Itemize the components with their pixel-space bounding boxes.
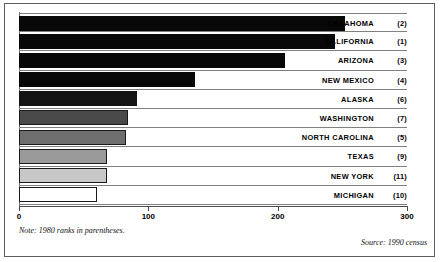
x-axis-line <box>19 206 407 207</box>
x-axis-tick-label: 300 <box>400 212 413 221</box>
bar <box>19 130 126 145</box>
bar-rank: (2) <box>379 18 407 27</box>
bar <box>19 110 128 125</box>
bar-label: NEW MEXICO <box>322 75 374 84</box>
chart-figure: OKLAHOMA(2)CALIFORNIA(1)ARIZONA(3)NEW ME… <box>0 0 440 262</box>
x-axis-tick-label: 0 <box>17 212 21 221</box>
bar <box>19 34 335 49</box>
bar <box>19 187 97 202</box>
x-axis-tick <box>19 206 20 211</box>
bar-label: NORTH CAROLINA <box>302 133 374 142</box>
bar <box>19 168 107 183</box>
bar-label: CALIFORNIA <box>325 37 374 46</box>
x-axis-tick <box>407 206 408 211</box>
bar-label: WASHINGTON <box>320 114 374 123</box>
bar <box>19 149 107 164</box>
bar-rank: (10) <box>379 190 407 199</box>
bar <box>19 53 285 68</box>
bar-label: ALASKA <box>341 94 374 103</box>
chart-row: TEXAS(9) <box>19 147 407 166</box>
x-axis-tick-label: 100 <box>142 212 155 221</box>
bar-rank: (9) <box>379 152 407 161</box>
chart-row: ARIZONA(3) <box>19 51 407 70</box>
chart-row: NEW MEXICO(4) <box>19 71 407 90</box>
bar <box>19 16 345 31</box>
chart-row: MICHIGAN(10) <box>19 186 407 205</box>
chart-row: ALASKA(6) <box>19 90 407 109</box>
chart-row: WASHINGTON(7) <box>19 109 407 128</box>
bar <box>19 91 137 106</box>
x-axis-tick-label: 200 <box>271 212 284 221</box>
chart-row: NORTH CAROLINA(5) <box>19 128 407 147</box>
bar-rank: (1) <box>379 37 407 46</box>
chart-row: CALIFORNIA(1) <box>19 32 407 51</box>
bar-label: NEW YORK <box>331 171 374 180</box>
bar-rank: (5) <box>379 133 407 142</box>
bar-rank: (11) <box>379 171 407 180</box>
bar-label: OKLAHOMA <box>328 18 374 27</box>
chart-source: Source: 1990 census <box>361 238 427 247</box>
chart-row: NEW YORK(11) <box>19 167 407 186</box>
bar-rank: (6) <box>379 94 407 103</box>
x-axis-tick <box>278 206 279 211</box>
bar-label: MICHIGAN <box>334 190 374 199</box>
bar-rank: (3) <box>379 56 407 65</box>
bar-rank: (7) <box>379 114 407 123</box>
chart-note: Note: 1980 ranks in parentheses. <box>19 226 125 235</box>
x-axis-tick <box>148 206 149 211</box>
bar-label: TEXAS <box>348 152 374 161</box>
bar-chart-plot: OKLAHOMA(2)CALIFORNIA(1)ARIZONA(3)NEW ME… <box>19 13 407 205</box>
bar <box>19 72 195 87</box>
bar-rank: (4) <box>379 75 407 84</box>
chart-row: OKLAHOMA(2) <box>19 13 407 32</box>
bar-label: ARIZONA <box>338 56 374 65</box>
